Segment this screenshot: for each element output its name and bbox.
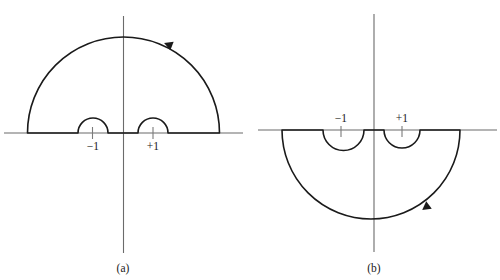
panel-a: −1 +1 (a): [4, 16, 243, 275]
figure-container: −1 +1 (a) −1 +1 (b): [0, 0, 500, 280]
panel-b-label-minus-one: −1: [335, 112, 348, 124]
panel-a-caption: (a): [117, 262, 130, 275]
panel-b-label-plus-one: +1: [396, 112, 409, 124]
panel-b-contour: [282, 130, 460, 219]
panel-a-label-plus-one: +1: [147, 140, 160, 152]
contour-diagram-svg: −1 +1 (a) −1 +1 (b): [0, 0, 500, 280]
panel-b-caption: (b): [367, 262, 381, 275]
panel-b: −1 +1 (b): [258, 14, 497, 275]
panel-a-label-minus-one: −1: [87, 140, 100, 152]
